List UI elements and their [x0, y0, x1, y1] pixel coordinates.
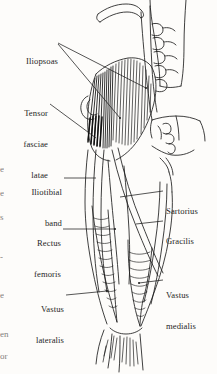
label-iliopsoas: Iliopsoas: [4, 36, 58, 87]
margin-fragment: en: [0, 330, 9, 339]
margin-fragment: or: [0, 352, 8, 361]
margin-fragment: -: [0, 253, 3, 262]
label-tensor-fasciae-latae-line-1: Tensor: [0, 108, 48, 118]
margin-fragment: e: [0, 189, 4, 198]
label-iliopsoas-line-1: Iliopsoas: [4, 56, 58, 66]
margin-fragment: e: [0, 291, 4, 300]
label-vastus-lateralis-line-2: lateralis: [8, 335, 64, 345]
label-gracilis: Gracilis: [166, 216, 216, 267]
label-vastus-lateralis-line-1: Vastus: [8, 304, 64, 314]
label-tensor-fasciae-latae-line-2: fasciae: [0, 139, 48, 149]
label-vastus-medialis: Vastus medialis: [166, 270, 216, 352]
figure-canvas: Iliopsoas Tensor fasciae latae Iliotibia…: [0, 0, 217, 374]
margin-fragment: e: [0, 165, 4, 174]
label-vastus-medialis-line-1: Vastus: [166, 290, 216, 300]
label-rectus-femoris-line-1: Rectus: [8, 238, 61, 248]
margin-fragment: s: [0, 213, 4, 222]
label-vastus-lateralis: Vastus lateralis: [8, 284, 64, 366]
label-vastus-medialis-line-2: medialis: [166, 321, 216, 331]
label-iliotibial-band-line-1: Iliotibial: [8, 187, 62, 197]
label-gracilis-line-1: Gracilis: [166, 236, 216, 246]
label-rectus-femoris-line-2: femoris: [8, 269, 61, 279]
